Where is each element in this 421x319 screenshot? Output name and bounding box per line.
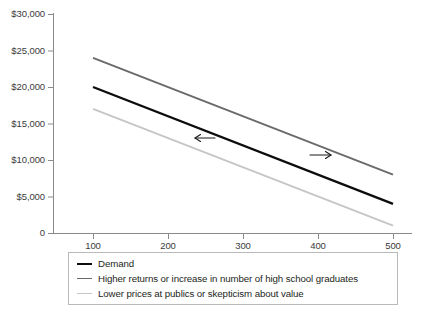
shift-arrows: [195, 135, 331, 159]
x-tick-label: 500: [368, 240, 418, 251]
series-line-1: [93, 58, 393, 175]
legend-item: Demand: [77, 258, 134, 269]
legend-label: Demand: [98, 258, 134, 269]
legend-swatch-line-icon: [77, 263, 92, 265]
legend-swatch-line-icon: [77, 278, 92, 279]
series-lines: [93, 58, 393, 226]
y-tick-label: $5,000: [0, 191, 45, 202]
legend-label: Higher returns or increase in number of …: [98, 273, 358, 284]
legend-swatch-line-icon: [77, 293, 92, 294]
x-tick-label: 200: [143, 240, 193, 251]
legend-item: Lower prices at publics or skepticism ab…: [77, 288, 304, 299]
chart-legend: DemandHigher returns or increase in numb…: [68, 252, 398, 305]
y-axis-ticks: [48, 15, 53, 234]
x-tick-label: 100: [68, 240, 118, 251]
series-line-2: [93, 109, 393, 226]
x-tick-label: 400: [293, 240, 343, 251]
y-tick-label: 0: [0, 227, 45, 238]
y-tick-label: $20,000: [0, 81, 45, 92]
legend-label: Lower prices at publics or skepticism ab…: [98, 288, 304, 299]
x-tick-label: 300: [218, 240, 268, 251]
y-tick-label: $10,000: [0, 154, 45, 165]
chart-container: $30,000$25,000$20,000$15,000$10,000$5,00…: [0, 0, 421, 319]
y-tick-label: $25,000: [0, 45, 45, 56]
y-tick-label: $15,000: [0, 118, 45, 129]
legend-item: Higher returns or increase in number of …: [77, 273, 358, 284]
series-line-0: [93, 87, 393, 204]
y-tick-label: $30,000: [0, 8, 45, 19]
